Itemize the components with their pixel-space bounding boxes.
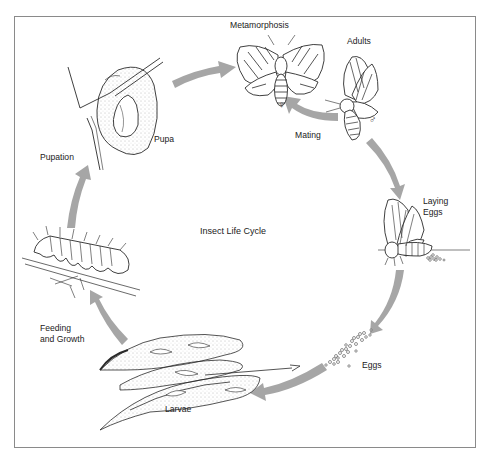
arrow-larvae-to-caterpillar-icon bbox=[90, 290, 128, 345]
label-eggs: Eggs bbox=[362, 360, 382, 371]
arrow-caterpillar-to-pupa-icon bbox=[67, 165, 91, 228]
male-symbol-icon: ♂ bbox=[369, 115, 377, 125]
female-symbol-icon: ♀ bbox=[278, 100, 286, 110]
female-moth-icon bbox=[237, 35, 324, 106]
caterpillar-icon bbox=[22, 226, 140, 298]
label-larvae: Larvae bbox=[165, 404, 191, 415]
label-laying-eggs: Laying Eggs bbox=[423, 196, 448, 218]
arrow-mating-icon bbox=[283, 96, 338, 121]
arrow-eggs-to-larvae-icon bbox=[250, 363, 327, 401]
label-feeding-and-growth: Feeding and Growth bbox=[40, 323, 84, 345]
label-pupa: Pupa bbox=[154, 134, 174, 145]
diagram-title: Insect Life Cycle bbox=[200, 226, 266, 237]
label-feeding-line-1: Feeding bbox=[40, 323, 84, 334]
arrow-adult-to-laying-icon bbox=[366, 138, 405, 200]
egg-cluster-small-icon bbox=[427, 254, 445, 262]
pupa-icon bbox=[68, 58, 163, 170]
label-pupation: Pupation bbox=[40, 152, 74, 163]
arrow-laying-to-eggs-icon bbox=[370, 270, 404, 334]
label-adults: Adults bbox=[347, 36, 371, 47]
arrow-pupa-to-adult-icon bbox=[172, 61, 236, 88]
leaves-with-larvae-icon bbox=[100, 334, 300, 430]
label-feeding-line-2: and Growth bbox=[40, 334, 84, 345]
label-laying-line-1: Laying bbox=[423, 196, 448, 207]
label-laying-line-2: Eggs bbox=[423, 207, 448, 218]
male-moth-icon bbox=[325, 56, 378, 140]
label-mating: Mating bbox=[295, 130, 321, 141]
label-metamorphosis: Metamorphosis bbox=[230, 20, 289, 31]
